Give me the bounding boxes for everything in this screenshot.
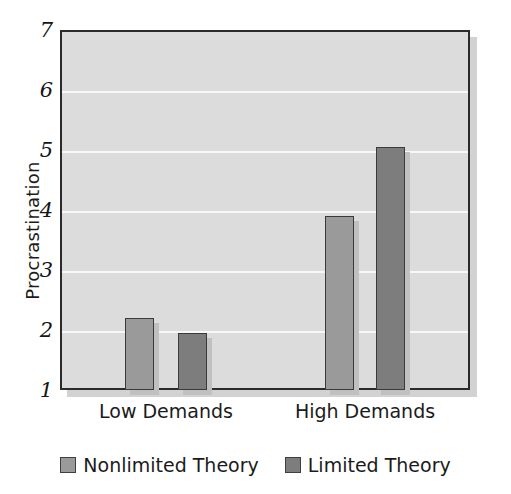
x-tick-label: Low Demands bbox=[99, 400, 233, 422]
bar bbox=[325, 216, 354, 390]
y-tick-label: 1 bbox=[13, 380, 53, 401]
legend-item[interactable]: Nonlimited Theory bbox=[60, 454, 258, 476]
legend-item[interactable]: Limited Theory bbox=[285, 454, 451, 476]
legend-label: Limited Theory bbox=[308, 454, 451, 476]
legend-swatch-icon bbox=[285, 457, 301, 473]
bar bbox=[178, 333, 207, 390]
y-axis-tick-labels: 1234567 bbox=[8, 0, 53, 494]
x-axis-tick-labels: Low DemandsHigh Demands bbox=[60, 400, 470, 430]
x-tick-label: High Demands bbox=[295, 400, 435, 422]
y-tick-label: 5 bbox=[13, 140, 53, 161]
y-tick-label: 7 bbox=[13, 20, 53, 41]
bar-chart-figure: Procrastination 1234567 Low DemandsHigh … bbox=[0, 0, 511, 494]
bar bbox=[376, 147, 405, 390]
legend-swatch-icon bbox=[60, 457, 76, 473]
chart-legend: Nonlimited TheoryLimited Theory bbox=[0, 450, 511, 480]
gridline bbox=[62, 91, 468, 93]
y-tick-label: 3 bbox=[13, 260, 53, 281]
y-tick-label: 6 bbox=[13, 80, 53, 101]
bar bbox=[125, 318, 154, 390]
y-tick-label: 2 bbox=[13, 320, 53, 341]
y-tick-label: 4 bbox=[13, 200, 53, 221]
legend-label: Nonlimited Theory bbox=[83, 454, 258, 476]
